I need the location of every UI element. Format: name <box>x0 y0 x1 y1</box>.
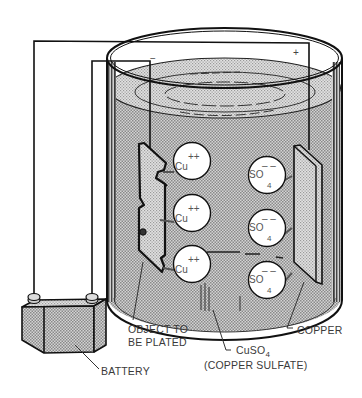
solution-formula-label: CuSO4 <box>236 344 270 359</box>
object-to-be-plated <box>139 143 167 272</box>
cu-symbol: Cu <box>175 264 188 275</box>
negative-terminal-sign: − <box>150 53 156 64</box>
cu-charge: ++ <box>188 254 200 265</box>
positive-terminal-sign: + <box>293 47 299 58</box>
object-label-line1: OBJECT TO <box>128 323 188 335</box>
so4-subscript: 4 <box>267 234 272 243</box>
cu-symbol: Cu <box>175 161 188 172</box>
battery-terminal-left <box>28 294 40 304</box>
copper-ion-2: Cu ++ <box>174 195 211 232</box>
copper-label: COPPER <box>297 324 343 336</box>
battery <box>22 294 106 354</box>
so4-charge: – – <box>262 265 276 276</box>
object-label-line2: BE PLATED <box>128 336 187 348</box>
copper-ion-1: Cu ++ <box>174 143 211 180</box>
so4-charge: – – <box>262 160 276 171</box>
sulfate-ion-2: SO 4 – – <box>249 210 286 247</box>
cu-charge: ++ <box>188 151 200 162</box>
object-hole <box>140 229 146 235</box>
sulfate-ion-3: SO 4 – – <box>249 262 286 299</box>
battery-label: BATTERY <box>101 365 150 377</box>
solution-name-label: (COPPER SULFATE) <box>204 359 307 371</box>
so4-charge: – – <box>262 213 276 224</box>
sulfate-ions: SO 4 – – SO 4 – – SO 4 – – <box>249 157 286 299</box>
cu-charge: ++ <box>188 203 200 214</box>
so4-subscript: 4 <box>267 286 272 295</box>
copper-ion-3: Cu ++ <box>174 246 211 283</box>
copper-ions: Cu ++ Cu ++ Cu ++ <box>174 143 211 283</box>
sulfate-ion-1: SO 4 – – <box>249 157 286 194</box>
cu-symbol: Cu <box>175 213 188 224</box>
electroplating-diagram: − + Cu ++ Cu ++ C <box>0 0 362 398</box>
so4-subscript: 4 <box>267 181 272 190</box>
beaker-wall-right <box>332 62 340 302</box>
copper-plate <box>294 145 322 284</box>
battery-terminal-right <box>86 294 98 304</box>
